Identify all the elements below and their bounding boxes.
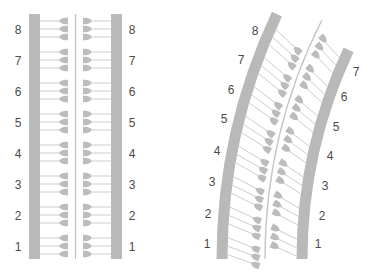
seat-connector-line bbox=[286, 166, 303, 177]
seat-icon bbox=[250, 260, 261, 269]
seat-icon bbox=[83, 111, 92, 117]
seat-icon bbox=[83, 158, 92, 164]
row-number-right: 6 bbox=[129, 85, 136, 99]
seat-connector-line bbox=[254, 87, 275, 103]
seat-icon bbox=[59, 173, 68, 179]
curved-row-diagram: 123456781234567 bbox=[204, 12, 360, 270]
row-number-right: 7 bbox=[129, 54, 136, 68]
seat-icon bbox=[83, 204, 92, 210]
seat-connector-line bbox=[246, 116, 268, 130]
seat-icon bbox=[83, 212, 92, 218]
seat-connector-line bbox=[280, 215, 298, 224]
seat-connector-line bbox=[300, 111, 316, 124]
seat-connector-line bbox=[279, 230, 297, 239]
seat-icon bbox=[59, 251, 68, 257]
seat-icon bbox=[59, 119, 68, 125]
seat-icon bbox=[83, 80, 92, 86]
seat-layout-diagrams: 8877665544332211 123456781234567 bbox=[0, 0, 381, 272]
seat-icon bbox=[59, 96, 68, 102]
seat-icon bbox=[59, 26, 68, 32]
row-number-left: 8 bbox=[252, 24, 259, 38]
row-group-left-2: 2 bbox=[205, 207, 262, 240]
seat-icon bbox=[273, 191, 284, 201]
straight-row-diagram: 8877665544332211 bbox=[15, 14, 136, 259]
row-group-right-1: 1 bbox=[270, 224, 322, 257]
row-number-left: 7 bbox=[15, 54, 22, 68]
seat-icon bbox=[271, 208, 282, 218]
row-number-left: 6 bbox=[228, 83, 235, 97]
seat-icon bbox=[253, 194, 264, 204]
seat-connector-line bbox=[313, 72, 327, 86]
row-number-right: 3 bbox=[322, 179, 329, 193]
row-number-left: 5 bbox=[221, 112, 228, 126]
seat-icon bbox=[83, 243, 92, 249]
seat-icon bbox=[59, 111, 68, 117]
seat-icon bbox=[59, 204, 68, 210]
seat-icon bbox=[59, 212, 68, 218]
seat-connector-line bbox=[273, 37, 292, 54]
seat-icon bbox=[250, 244, 261, 253]
seat-icon bbox=[59, 18, 68, 24]
seat-icon bbox=[59, 150, 68, 156]
row-number-right: 2 bbox=[129, 209, 136, 223]
row-number-left: 2 bbox=[15, 209, 22, 223]
seat-icon bbox=[292, 45, 303, 56]
seat-icon bbox=[83, 57, 92, 63]
seat-icon bbox=[83, 220, 92, 226]
seat-icon bbox=[250, 252, 261, 261]
seat-connector-line bbox=[269, 45, 289, 62]
row-number-right: 1 bbox=[315, 237, 322, 251]
seat-connector-line bbox=[282, 198, 300, 208]
seat-connector-line bbox=[302, 103, 317, 116]
seat-icon bbox=[83, 119, 92, 125]
seat-icon bbox=[251, 223, 262, 232]
seat-connector-line bbox=[228, 255, 252, 264]
seat-icon bbox=[252, 202, 263, 212]
seat-connector-line bbox=[297, 120, 313, 133]
seat-icon bbox=[250, 231, 261, 240]
seat-connector-line bbox=[319, 58, 333, 72]
seat-icon bbox=[83, 26, 92, 32]
seat-icon bbox=[83, 181, 92, 187]
left-wall-bar bbox=[29, 14, 40, 259]
row-number-right: 4 bbox=[327, 149, 334, 163]
row-group-left-4: 4 bbox=[214, 144, 270, 183]
row-number-left: 4 bbox=[15, 147, 22, 161]
seat-connector-line bbox=[281, 207, 299, 217]
row-number-left: 2 bbox=[205, 207, 212, 221]
row-number-left: 5 bbox=[15, 116, 22, 130]
seat-connector-line bbox=[322, 50, 336, 65]
row-number-right: 3 bbox=[129, 178, 136, 192]
seat-icon bbox=[83, 235, 92, 241]
row-number-right: 8 bbox=[129, 23, 136, 37]
seat-icon bbox=[83, 49, 92, 55]
seat-icon bbox=[59, 142, 68, 148]
seat-icon bbox=[83, 189, 92, 195]
row-number-left: 3 bbox=[209, 175, 216, 189]
seat-icon bbox=[83, 65, 92, 71]
seat-icon bbox=[59, 88, 68, 94]
seat-icon bbox=[59, 65, 68, 71]
seat-icon bbox=[275, 176, 286, 186]
seat-icon bbox=[83, 150, 92, 156]
seat-connector-line bbox=[249, 103, 270, 118]
seat-icon bbox=[272, 200, 283, 210]
seat-connector-line bbox=[291, 143, 307, 155]
seat-connector-line bbox=[326, 42, 340, 57]
seat-icon bbox=[83, 251, 92, 257]
row-number-left: 7 bbox=[238, 53, 245, 67]
row-number-right: 4 bbox=[129, 147, 136, 161]
row-group-left-3: 3 bbox=[209, 175, 265, 211]
row-group-left-1: 1 bbox=[204, 237, 261, 269]
row-number-left: 3 bbox=[15, 178, 22, 192]
row-number-left: 8 bbox=[15, 23, 22, 37]
seat-connector-line bbox=[284, 183, 301, 193]
seat-connector-line bbox=[289, 151, 306, 163]
seat-icon bbox=[59, 80, 68, 86]
seat-icon bbox=[311, 50, 322, 61]
row-number-right: 5 bbox=[129, 116, 136, 130]
seat-icon bbox=[270, 232, 281, 242]
row-number-right: 7 bbox=[353, 65, 360, 79]
row-number-right: 2 bbox=[319, 209, 326, 223]
seat-connector-line bbox=[230, 207, 254, 218]
